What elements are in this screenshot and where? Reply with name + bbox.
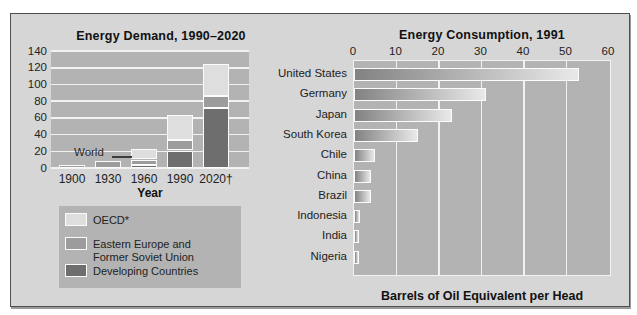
consumption-bar <box>354 210 360 223</box>
x-tick-label: 2020† <box>194 172 238 186</box>
country-label: Brazil <box>233 189 347 202</box>
x-tick-label: 20 <box>423 45 453 57</box>
world-annotation: World <box>74 146 104 158</box>
consumption-bar <box>354 129 418 142</box>
consumption-bar <box>354 88 486 101</box>
country-label: China <box>233 169 347 182</box>
bar-segment-developing <box>167 151 193 169</box>
y-tick-label: 20 <box>13 145 47 157</box>
legend-label: Former Soviet Union <box>93 251 194 263</box>
bar-segment-eefsu <box>59 165 85 169</box>
country-label: Japan <box>233 108 347 121</box>
y-tick-label: 60 <box>13 111 47 123</box>
y-tick-label: 140 <box>13 45 47 57</box>
bar-segment-oecd <box>203 64 229 96</box>
energy-demand-title: Energy Demand, 1990–2020 <box>51 29 271 43</box>
figure-panel: Energy Demand, 1990–2020 Year OECD*Easte… <box>10 13 630 307</box>
legend: OECD*Eastern Europe andFormer Soviet Uni… <box>59 206 241 288</box>
country-label: Nigeria <box>233 250 347 263</box>
consumption-bar <box>354 149 375 162</box>
energy-consumption-title: Energy Consumption, 1991 <box>353 28 611 42</box>
y-tick-label: 80 <box>13 95 47 107</box>
legend-label: Developing Countries <box>93 265 198 277</box>
bar-segment-eefsu <box>203 96 229 108</box>
consumption-bar <box>354 190 371 203</box>
bar-segment-developing <box>131 165 157 169</box>
bar-segment-eefsu <box>167 140 193 151</box>
grid-line <box>523 61 525 275</box>
grid-line <box>51 50 249 52</box>
x-tick-label: 40 <box>508 45 538 57</box>
country-label: United States <box>233 67 347 80</box>
bar-segment-developing <box>203 108 229 168</box>
year-axis-label: Year <box>51 186 249 200</box>
legend-label: OECD* <box>93 214 129 226</box>
consumption-bar <box>354 251 359 264</box>
country-label: India <box>233 229 347 242</box>
grid-line <box>566 61 568 275</box>
legend-swatch-developing <box>65 264 87 277</box>
legend-label: Eastern Europe and <box>93 238 191 250</box>
bar-segment-oecd <box>167 115 193 140</box>
consumption-bar <box>354 170 371 183</box>
y-tick-label: 120 <box>13 61 47 73</box>
country-label: Germany <box>233 87 347 100</box>
consumption-bar <box>354 230 359 243</box>
consumption-bar <box>354 68 579 81</box>
x-tick-label: 60 <box>593 45 623 57</box>
x-tick-label: 10 <box>381 45 411 57</box>
country-label: Indonesia <box>233 209 347 222</box>
x-tick-label: 0 <box>338 45 368 57</box>
x-tick-label: 30 <box>466 45 496 57</box>
barrels-axis-label: Barrels of Oil Equivalent per Head <box>343 289 621 303</box>
y-tick-label: 0 <box>13 162 47 174</box>
bar-segment-oecd <box>131 149 157 160</box>
legend-swatch-oecd <box>65 213 87 226</box>
y-tick-label: 40 <box>13 128 47 140</box>
energy-consumption-plot <box>353 60 611 276</box>
country-label: South Korea <box>233 128 347 141</box>
legend-swatch-eefsu <box>65 237 87 250</box>
bar-segment-eefsu <box>95 161 121 168</box>
bar-segment-eefsu <box>131 160 157 165</box>
world-leader-line <box>112 156 132 158</box>
country-label: Chile <box>233 148 347 161</box>
consumption-bar <box>354 109 452 122</box>
x-tick-label: 50 <box>551 45 581 57</box>
y-tick-label: 100 <box>13 78 47 90</box>
